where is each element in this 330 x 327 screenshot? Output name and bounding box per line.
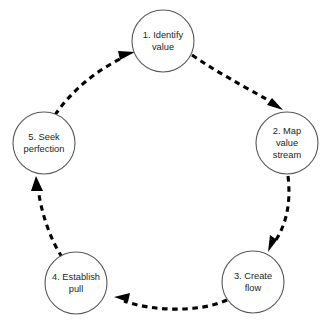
edge-3-4-path (124, 300, 227, 309)
edge-4-5-arrowhead (31, 176, 43, 191)
node-create-flow-label-line2: flow (245, 283, 262, 293)
node-create-flow-circle[interactable] (222, 251, 284, 313)
node-seek-perfection-label-line1: 5. Seek (28, 132, 60, 142)
edge-3-4-arrowhead (114, 293, 130, 302)
node-seek-perfection-circle[interactable] (13, 112, 75, 174)
edge-seek-perfection-to-identify-value (55, 51, 135, 115)
node-map-value-stream-label-line2: value (276, 138, 298, 148)
edge-2-3-path (274, 176, 289, 243)
node-map-value-stream[interactable]: 2. Map value stream (256, 112, 318, 174)
node-establish-pull-label-line2: pull (69, 284, 83, 294)
node-identify-value[interactable]: 1. Identify value (132, 10, 194, 72)
edge-5-1-path (55, 57, 124, 115)
edge-1-2-arrowhead (267, 98, 283, 110)
edge-create-flow-to-establish-pull (114, 293, 227, 309)
edge-1-2-path (192, 55, 275, 104)
cycle-diagram-canvas: 1. Identify value 2. Map value stream 3.… (0, 0, 330, 327)
cycle-diagram: 1. Identify value 2. Map value stream 3.… (0, 0, 330, 327)
node-identify-value-label-line2: value (152, 42, 174, 52)
node-seek-perfection[interactable]: 5. Seek perfection (13, 112, 75, 174)
edge-4-5-path (38, 188, 62, 257)
edge-establish-pull-to-seek-perfection (31, 176, 62, 257)
node-establish-pull-label-line1: 4. Establish (52, 272, 100, 282)
node-map-value-stream-label-line1: 2. Map (273, 126, 301, 136)
node-establish-pull[interactable]: 4. Establish pull (45, 252, 107, 314)
node-identify-value-label-line1: 1. Identify (143, 30, 184, 40)
node-create-flow[interactable]: 3. Create flow (222, 251, 284, 313)
node-seek-perfection-label-line2: perfection (24, 144, 65, 154)
node-identify-value-circle[interactable] (132, 10, 194, 72)
edge-5-1-arrowhead (118, 51, 135, 60)
node-create-flow-label-line1: 3. Create (234, 271, 272, 281)
edge-map-value-stream-to-create-flow (268, 176, 289, 252)
node-map-value-stream-label-line3: stream (273, 150, 302, 160)
node-establish-pull-circle[interactable] (45, 252, 107, 314)
edge-identify-value-to-map-value-stream (192, 55, 283, 110)
